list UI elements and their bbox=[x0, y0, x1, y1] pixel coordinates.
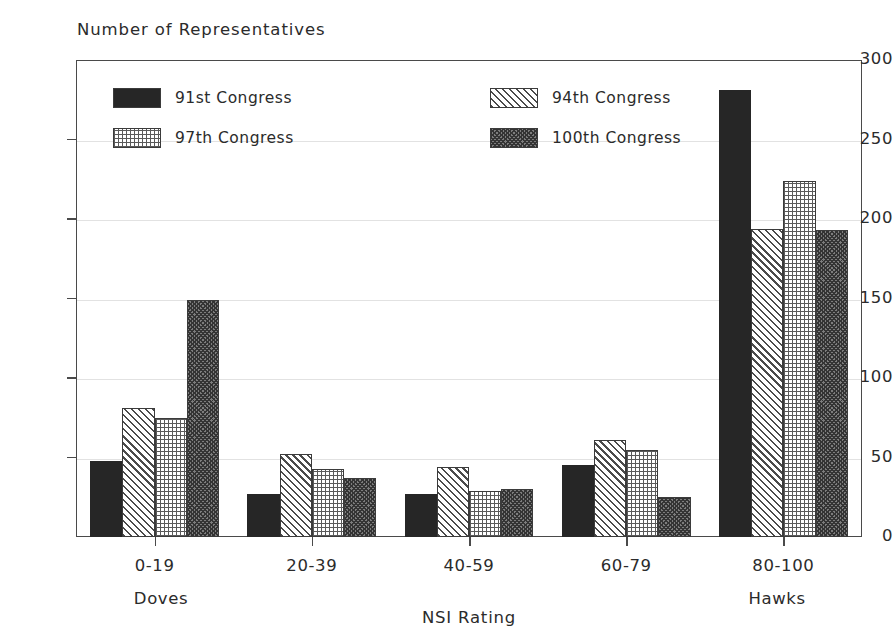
bar-60-79-94th-congress bbox=[594, 440, 626, 537]
legend-label: 100th Congress bbox=[552, 128, 681, 148]
x-axis-tick bbox=[155, 537, 157, 546]
bar-80-100-97th-congress bbox=[783, 181, 815, 537]
bar-40-59-97th-congress bbox=[469, 491, 501, 537]
axis-end-label-left: Doves bbox=[134, 589, 188, 608]
x-axis-tick bbox=[312, 537, 314, 546]
bar-20-39-94th-congress bbox=[280, 454, 312, 537]
y-axis-tick bbox=[67, 139, 76, 141]
x-axis-label-80-100: 80-100 bbox=[752, 556, 814, 575]
x-axis-tick bbox=[626, 537, 628, 546]
x-axis-label-40-59: 40-59 bbox=[444, 556, 495, 575]
chart-canvas: Number of Representatives 05010015020025… bbox=[0, 0, 893, 640]
legend-label: 91st Congress bbox=[175, 88, 292, 108]
bar-60-79-97th-congress bbox=[626, 450, 658, 537]
x-axis-tick bbox=[783, 537, 785, 546]
bar-40-59-91st-congress bbox=[405, 494, 437, 537]
bar-0-19-97th-congress bbox=[155, 418, 187, 537]
x-axis-label-0-19: 0-19 bbox=[135, 556, 175, 575]
bar-20-39-97th-congress bbox=[312, 469, 344, 537]
bar-40-59-94th-congress bbox=[437, 467, 469, 537]
bar-0-19-100th-congress bbox=[187, 300, 219, 537]
legend-swatch-icon bbox=[113, 128, 161, 148]
legend-swatch-icon bbox=[113, 88, 161, 108]
y-axis-tick bbox=[67, 457, 76, 459]
x-axis-label-60-79: 60-79 bbox=[601, 556, 652, 575]
bar-60-79-91st-congress bbox=[562, 465, 594, 537]
bar-20-39-100th-congress bbox=[344, 478, 376, 537]
legend-swatch-icon bbox=[490, 88, 538, 108]
x-axis-title: NSI Rating bbox=[422, 608, 516, 627]
bar-80-100-91st-congress bbox=[719, 90, 751, 537]
bar-60-79-100th-congress bbox=[658, 497, 690, 537]
y-axis-tick bbox=[67, 298, 76, 300]
bar-80-100-100th-congress bbox=[816, 230, 848, 537]
bar-80-100-94th-congress bbox=[751, 229, 783, 537]
x-axis-tick bbox=[469, 537, 471, 546]
axis-end-label-right: Hawks bbox=[748, 589, 805, 608]
y-axis-tick bbox=[67, 218, 76, 220]
bar-0-19-94th-congress bbox=[122, 408, 154, 537]
x-axis-label-20-39: 20-39 bbox=[286, 556, 337, 575]
bar-40-59-100th-congress bbox=[501, 489, 533, 537]
y-axis-label: 250 bbox=[837, 129, 893, 148]
bar-0-19-91st-congress bbox=[90, 461, 122, 537]
legend-swatch-icon bbox=[490, 128, 538, 148]
y-axis-label: 300 bbox=[837, 49, 893, 68]
y-axis-label: 200 bbox=[837, 208, 893, 227]
legend-label: 97th Congress bbox=[175, 128, 294, 148]
bar-20-39-91st-congress bbox=[247, 494, 279, 537]
y-axis-tick bbox=[67, 377, 76, 379]
legend-label: 94th Congress bbox=[552, 88, 671, 108]
y-axis-title: Number of Representatives bbox=[77, 20, 325, 39]
